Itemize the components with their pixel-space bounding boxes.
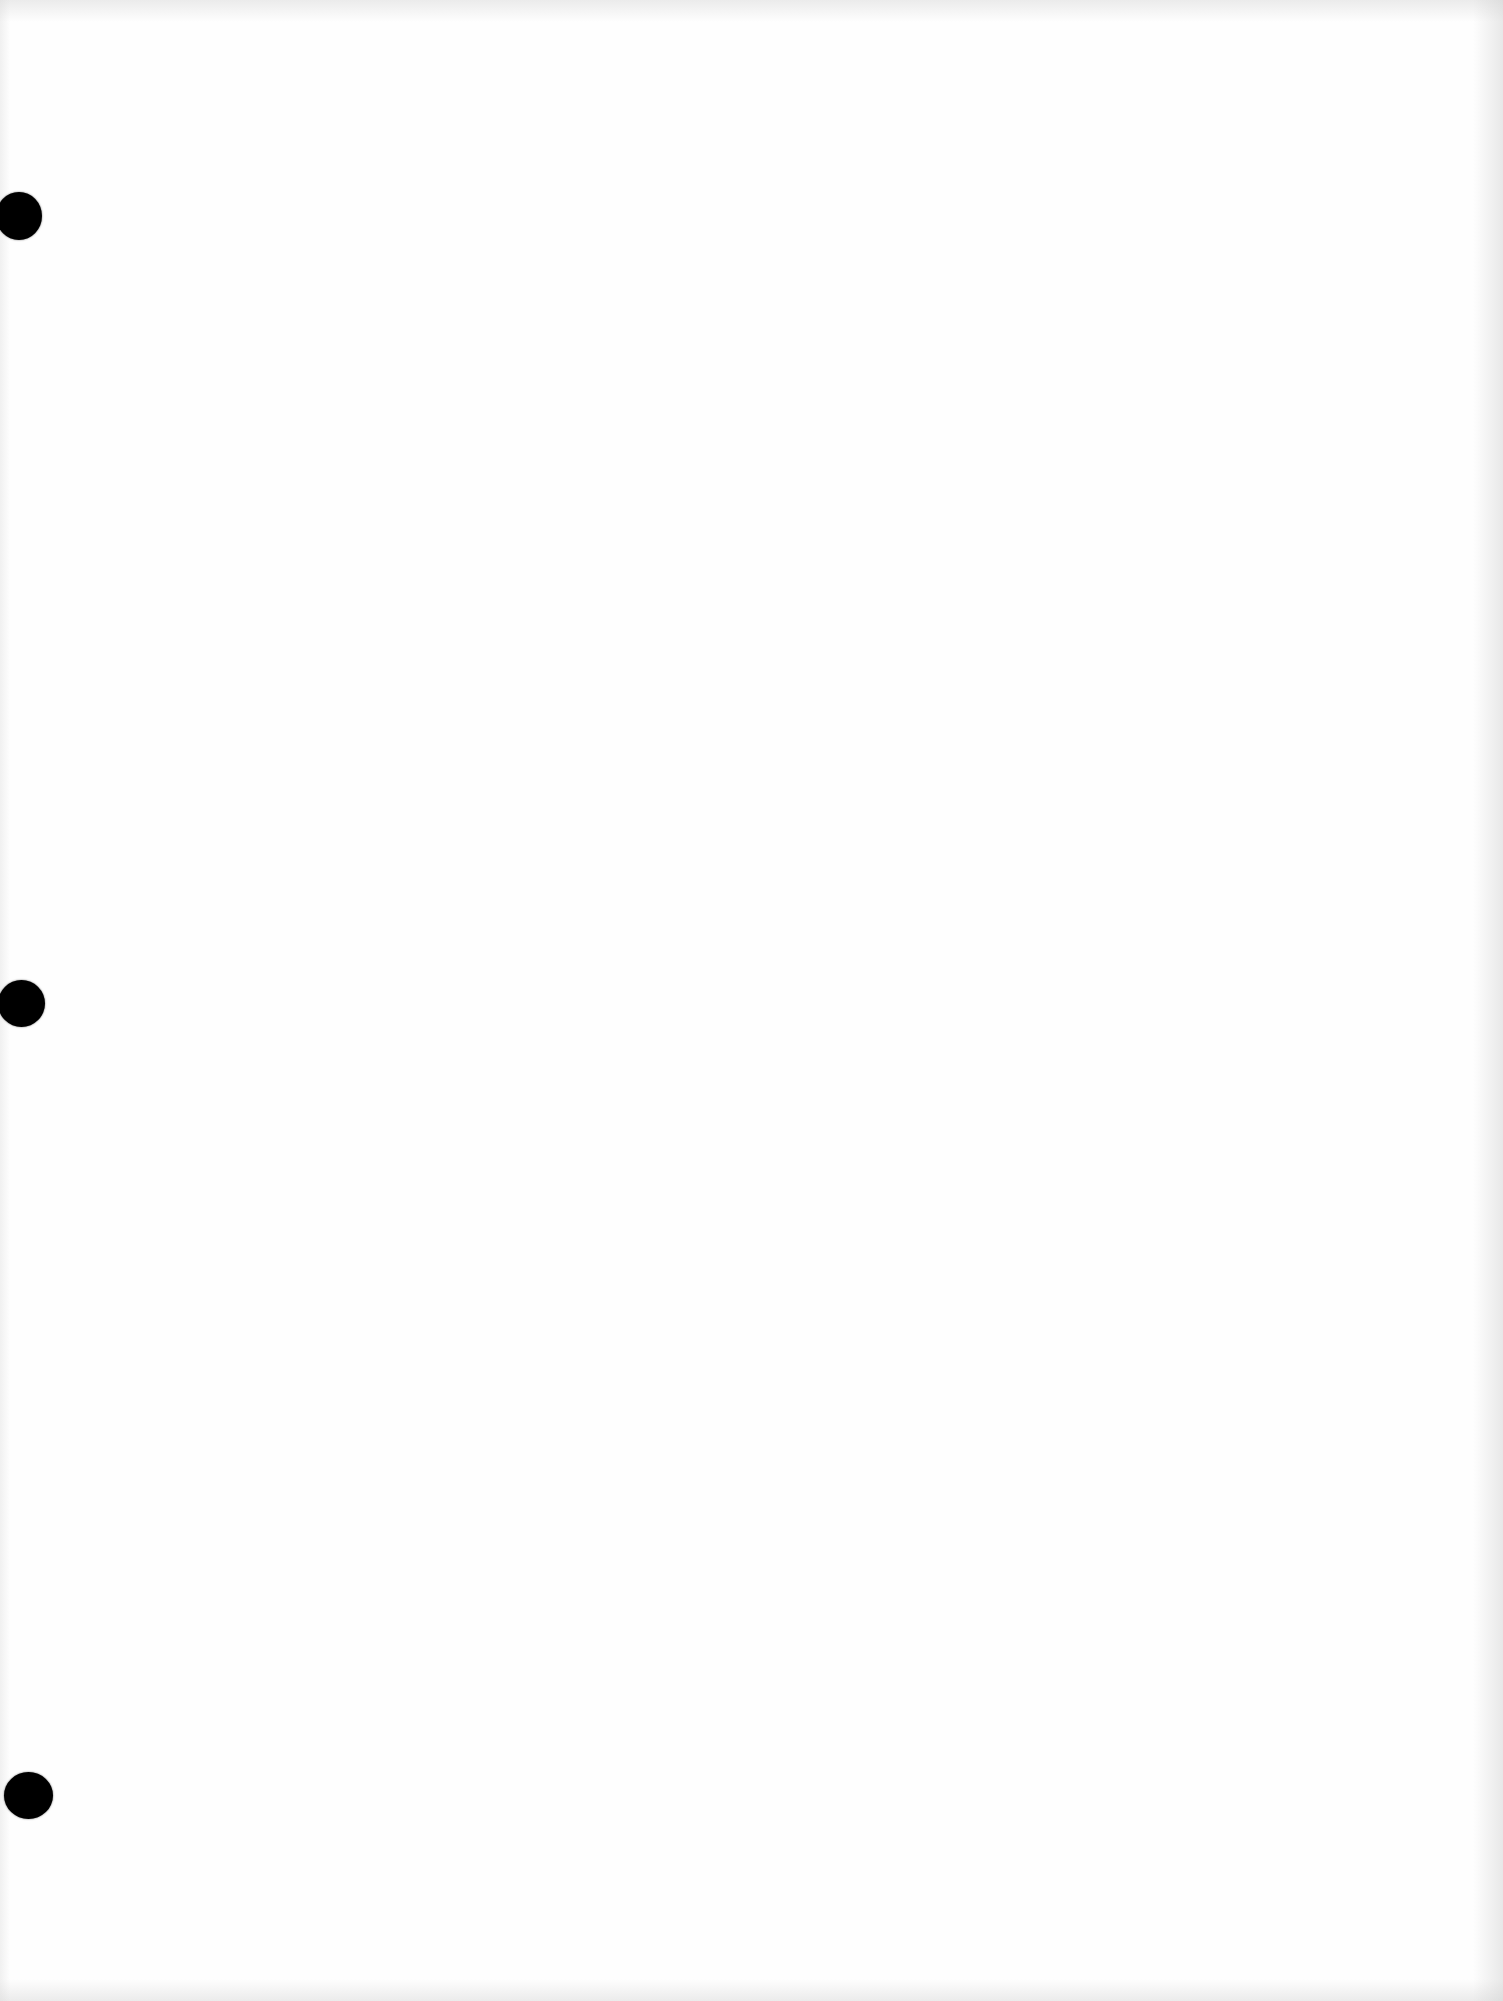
punch-hole-top <box>0 192 42 240</box>
scanner-shadow-right <box>1473 0 1503 2001</box>
scanner-shadow-top <box>0 0 1503 22</box>
scanned-page <box>0 0 1503 2001</box>
punch-hole-middle <box>0 980 45 1027</box>
scanner-shadow-bottom <box>0 1979 1503 2001</box>
punch-hole-bottom <box>4 1772 53 1819</box>
